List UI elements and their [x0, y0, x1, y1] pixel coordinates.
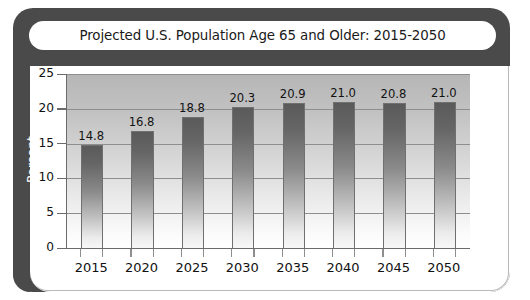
bar [383, 103, 405, 248]
x-axis-tick-mark [231, 249, 232, 257]
bar [333, 102, 355, 248]
y-axis-tick-mark [57, 213, 66, 214]
x-axis-tick-mark [405, 249, 406, 257]
y-axis-tick-label: 20 [24, 101, 54, 115]
y-axis-tick-mark [57, 108, 66, 109]
bar-value-label: 18.8 [168, 101, 216, 115]
x-axis-tick-mark [153, 249, 154, 257]
gridline [67, 144, 470, 145]
y-axis-tick-label: 0 [24, 240, 54, 254]
bar-value-label: 14.8 [67, 129, 115, 143]
gridline [67, 109, 470, 110]
y-axis-tick-label: 25 [24, 66, 54, 80]
gridline [67, 74, 470, 75]
x-axis-tick-label: 2050 [414, 260, 474, 275]
y-axis-tick-label: 5 [24, 205, 54, 219]
bar [283, 103, 305, 248]
chart-figure: Percent Projected U.S. Population Age 65… [0, 0, 530, 300]
x-axis-tick-mark [102, 249, 103, 257]
x-axis-tick-mark [354, 249, 355, 257]
x-axis-tick-mark [304, 249, 305, 257]
gridline [67, 178, 470, 179]
bar [182, 117, 204, 248]
bar-value-label: 21.0 [319, 86, 367, 100]
bar-value-label: 20.9 [269, 87, 317, 101]
bar-value-label: 20.3 [218, 91, 266, 105]
chart-title: Projected U.S. Population Age 65 and Old… [79, 28, 445, 43]
bar [81, 145, 103, 248]
y-axis-tick-label: 15 [24, 136, 54, 150]
y-axis-tick-mark [57, 143, 66, 144]
bar-value-label: 21.0 [420, 86, 468, 100]
x-axis-tick-mark [455, 249, 456, 257]
gridline [67, 213, 470, 214]
chart-title-pill: Projected U.S. Population Age 65 and Old… [29, 21, 496, 50]
x-axis-tick-mark [282, 249, 283, 257]
bar [232, 107, 254, 248]
bar-value-label: 20.8 [369, 87, 417, 101]
x-axis-tick-mark [80, 249, 81, 257]
y-axis-tick-mark [57, 178, 66, 179]
bar-value-label: 16.8 [118, 115, 166, 129]
bar [434, 102, 456, 248]
y-axis-tick-mark [57, 248, 66, 249]
y-axis-tick-label: 10 [24, 170, 54, 184]
y-axis-tick-mark [57, 74, 66, 75]
x-axis-tick-mark [181, 249, 182, 257]
y-axis-title: Percent [24, 100, 39, 220]
x-axis-tick-mark [253, 249, 254, 257]
x-axis-tick-mark [382, 249, 383, 257]
x-axis-tick-mark [433, 249, 434, 257]
x-axis-tick-mark [332, 249, 333, 257]
bar [131, 131, 153, 248]
x-axis-tick-mark [130, 249, 131, 257]
x-axis-tick-mark [203, 249, 204, 257]
